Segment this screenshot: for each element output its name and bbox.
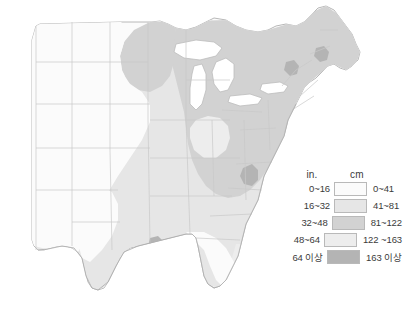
- legend-swatch-64-plus: [327, 250, 360, 264]
- legend-inches-16-32: 16~32: [290, 200, 334, 211]
- legend-inches-32-48: 32~48: [290, 217, 332, 228]
- legend-header-row: in. cm: [290, 164, 402, 180]
- legend-swatch-48-64: [324, 233, 357, 247]
- legend-cm-122-163: 122 ~163: [357, 234, 402, 245]
- legend-header-inches: in.: [290, 169, 334, 180]
- legend-header-cm: cm: [336, 169, 396, 180]
- legend-row-32-48: 32~48 81~122: [290, 214, 402, 231]
- legend-swatch-16-32: [334, 199, 367, 213]
- snowfall-map-figure: in. cm 0~16 0~41 16~32 41~81 32~48 81~12…: [0, 0, 405, 313]
- legend-inches-0-16: 0~16: [290, 183, 334, 194]
- legend-row-64-plus: 64 이상 163 이상: [290, 248, 402, 265]
- map-graphic: [0, 0, 405, 313]
- legend-swatch-32-48: [332, 216, 365, 230]
- legend-swatch-0-16: [334, 182, 367, 196]
- legend-cm-0-41: 0~41: [367, 183, 394, 194]
- legend-row-16-32: 16~32 41~81: [290, 197, 402, 214]
- legend-cm-81-122: 81~122: [365, 217, 402, 228]
- map-legend: in. cm 0~16 0~41 16~32 41~81 32~48 81~12…: [290, 164, 402, 265]
- legend-inches-48-64: 48~64: [290, 234, 324, 245]
- legend-row-48-64: 48~64 122 ~163: [290, 231, 402, 248]
- legend-cm-41-81: 41~81: [367, 200, 399, 211]
- legend-row-0-16: 0~16 0~41: [290, 180, 402, 197]
- legend-cm-163-plus: 163 이상: [360, 250, 402, 264]
- legend-inches-64-plus: 64 이상: [290, 250, 327, 264]
